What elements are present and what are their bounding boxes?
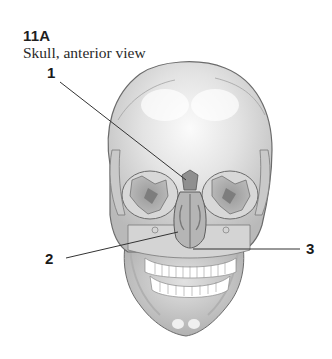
orbit-right <box>202 171 258 219</box>
label-1: 1 <box>47 64 55 81</box>
figure-number: 11A <box>23 27 50 44</box>
label-3: 3 <box>306 240 314 257</box>
orbit-left <box>122 171 178 219</box>
figure-title: Skull, anterior view <box>23 44 146 62</box>
label-2: 2 <box>45 250 53 267</box>
